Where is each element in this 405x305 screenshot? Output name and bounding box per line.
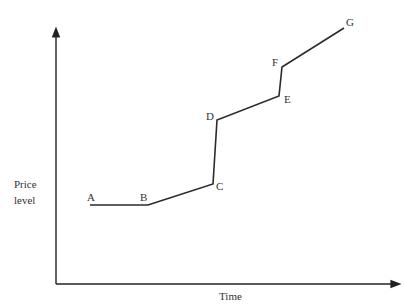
x-axis-label: Time (219, 290, 242, 302)
point-label-d: D (206, 111, 214, 122)
point-label-b: B (140, 192, 147, 203)
price-path-line (90, 28, 344, 205)
price-level-diagram (0, 0, 405, 305)
point-label-a: A (87, 192, 95, 203)
point-label-g: G (346, 17, 354, 28)
point-label-f: F (272, 57, 278, 68)
point-label-e: E (284, 94, 291, 105)
y-label-line2: level (14, 192, 37, 208)
point-label-c: C (216, 181, 223, 192)
y-label-line1: Price (14, 176, 37, 192)
y-axis-label: Price level (14, 176, 37, 208)
